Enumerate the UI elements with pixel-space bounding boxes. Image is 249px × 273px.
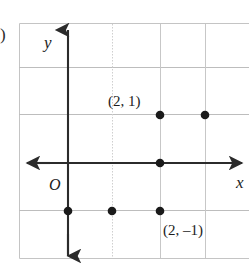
data-point	[156, 207, 165, 216]
x-axis-label: x	[235, 173, 244, 192]
coordinate-plane-figure: y x O (2, 1) (2, –1) )	[0, 0, 249, 273]
data-point	[156, 111, 165, 120]
origin-label: O	[49, 176, 61, 193]
point-label-lower: (2, –1)	[163, 222, 203, 239]
point-label-upper: (2, 1)	[108, 93, 141, 110]
y-axis-label: y	[42, 33, 52, 52]
figure-screenshot: y x O (2, 1) (2, –1) )	[0, 0, 249, 273]
data-point	[64, 207, 73, 216]
figure-background	[0, 0, 249, 273]
data-point	[201, 111, 210, 120]
figure-enumerator: )	[0, 25, 6, 44]
data-point	[156, 159, 165, 168]
data-point	[108, 207, 117, 216]
